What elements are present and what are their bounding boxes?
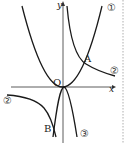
hyperbola-2-right-branch	[67, 6, 115, 76]
curve-3-label: ③	[80, 128, 89, 139]
curve-1-label: ①	[107, 2, 116, 13]
function-graph-diagram: y x O A B ① ② ② ③	[0, 0, 126, 143]
parabola-3-curve	[53, 87, 77, 137]
point-a-label: A	[83, 53, 92, 64]
point-b-label: B	[44, 123, 51, 134]
curve-2-right-label: ②	[110, 65, 119, 76]
origin-label: O	[53, 77, 61, 88]
y-axis-label: y	[56, 0, 63, 10]
x-axis-label: x	[109, 84, 114, 94]
y-axis	[61, 1, 65, 143]
parabola-1-curve	[22, 6, 102, 87]
curve-2-left-label: ②	[3, 95, 12, 106]
